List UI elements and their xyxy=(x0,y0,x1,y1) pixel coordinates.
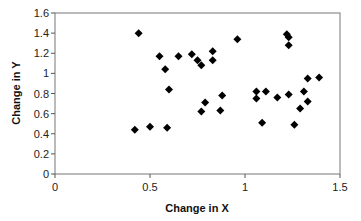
x-axis: 00.511.5 xyxy=(52,174,348,193)
y-tick-label: 0 xyxy=(43,168,49,180)
y-tick-label: 0.8 xyxy=(34,88,49,100)
y-axis-title: Change in Y xyxy=(10,61,22,125)
y-tick-label: 0.2 xyxy=(34,148,49,160)
scatter-chart: 00.20.40.60.811.21.41.6 00.511.5 Change … xyxy=(0,0,361,221)
y-tick-label: 1.4 xyxy=(34,27,49,39)
y-tick-label: 0.4 xyxy=(34,128,49,140)
y-tick-label: 0.6 xyxy=(34,108,49,120)
x-tick-label: 0 xyxy=(52,181,58,193)
y-tick-label: 1.6 xyxy=(34,7,49,19)
y-tick-label: 1 xyxy=(43,67,49,79)
y-axis: 00.20.40.60.811.21.41.6 xyxy=(34,7,55,180)
y-tick-label: 1.2 xyxy=(34,47,49,59)
x-tick-label: 1 xyxy=(242,181,248,193)
x-tick-label: 0.5 xyxy=(142,181,157,193)
x-axis-title: Change in X xyxy=(165,202,229,214)
x-tick-label: 1.5 xyxy=(332,181,347,193)
plot-area xyxy=(55,13,340,174)
